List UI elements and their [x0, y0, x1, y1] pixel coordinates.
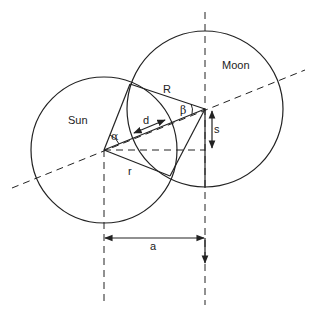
- d-label: d: [143, 114, 149, 126]
- alpha-label: α: [111, 130, 119, 143]
- moon-radius-lower: [170, 109, 205, 176]
- eclipse-geometry-diagram: Sun Moon R r d s a α β: [0, 0, 312, 322]
- R-label: R: [163, 83, 171, 95]
- center-line-dashed: [12, 70, 305, 188]
- sun-label: Sun: [68, 114, 88, 126]
- moon-label: Moon: [222, 59, 250, 71]
- a-label: a: [150, 240, 157, 252]
- beta-label: β: [180, 104, 186, 117]
- s-label: s: [214, 123, 220, 135]
- beta-arc: [191, 104, 192, 114]
- diagram-canvas: Sun Moon R r d s a α β: [0, 0, 312, 322]
- sun-radius-r: [104, 150, 170, 176]
- r-label: r: [128, 165, 132, 177]
